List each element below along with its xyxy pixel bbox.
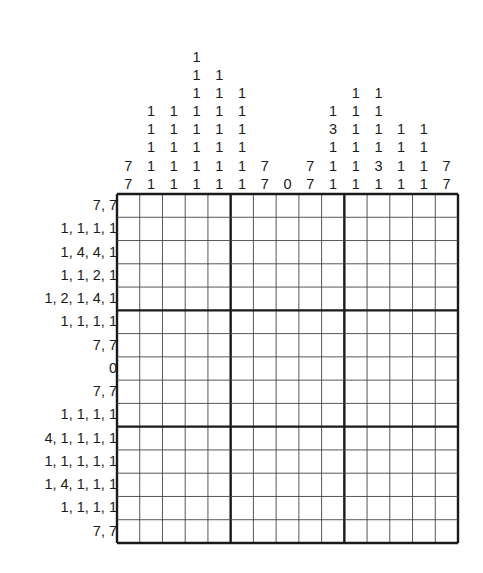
grid-cell-r10-c9[interactable]: [299, 403, 322, 426]
grid-cell-r1-c15[interactable]: [435, 194, 458, 217]
grid-cell-r7-c10[interactable]: [322, 334, 345, 357]
grid-cell-r2-c6[interactable]: [231, 217, 254, 240]
grid-cell-r15-c3[interactable]: [162, 520, 185, 543]
grid-cell-r7-c9[interactable]: [299, 334, 322, 357]
grid-cell-r1-c4[interactable]: [185, 194, 208, 217]
grid-cell-r15-c10[interactable]: [322, 520, 345, 543]
grid-cell-r3-c11[interactable]: [344, 241, 367, 264]
grid-cell-r4-c12[interactable]: [367, 264, 390, 287]
grid-cell-r15-c14[interactable]: [413, 520, 436, 543]
grid-cell-r5-c15[interactable]: [435, 287, 458, 310]
grid-cell-r13-c3[interactable]: [162, 473, 185, 496]
grid-cell-r2-c12[interactable]: [367, 217, 390, 240]
grid-cell-r4-c1[interactable]: [117, 264, 140, 287]
grid-cell-r5-c6[interactable]: [231, 287, 254, 310]
grid-cell-r12-c4[interactable]: [185, 450, 208, 473]
grid-cell-r1-c6[interactable]: [231, 194, 254, 217]
grid-cell-r10-c14[interactable]: [413, 403, 436, 426]
grid-cell-r5-c2[interactable]: [140, 287, 163, 310]
grid-cell-r6-c9[interactable]: [299, 310, 322, 333]
grid-cell-r9-c4[interactable]: [185, 380, 208, 403]
grid-cell-r14-c5[interactable]: [208, 496, 231, 519]
grid-cell-r9-c12[interactable]: [367, 380, 390, 403]
grid-cell-r9-c7[interactable]: [253, 380, 276, 403]
grid-cell-r8-c2[interactable]: [140, 357, 163, 380]
grid-cell-r10-c3[interactable]: [162, 403, 185, 426]
grid-cell-r2-c7[interactable]: [253, 217, 276, 240]
grid-cell-r15-c9[interactable]: [299, 520, 322, 543]
grid-cell-r12-c11[interactable]: [344, 450, 367, 473]
grid-cell-r6-c14[interactable]: [413, 310, 436, 333]
grid-cell-r12-c13[interactable]: [390, 450, 413, 473]
grid-cell-r8-c12[interactable]: [367, 357, 390, 380]
grid-cell-r5-c4[interactable]: [185, 287, 208, 310]
grid-cell-r1-c9[interactable]: [299, 194, 322, 217]
grid-cell-r10-c13[interactable]: [390, 403, 413, 426]
grid-cell-r14-c4[interactable]: [185, 496, 208, 519]
grid-cell-r10-c5[interactable]: [208, 403, 231, 426]
grid-cell-r3-c15[interactable]: [435, 241, 458, 264]
grid-cell-r15-c12[interactable]: [367, 520, 390, 543]
grid-cell-r7-c1[interactable]: [117, 334, 140, 357]
grid-cell-r12-c1[interactable]: [117, 450, 140, 473]
grid-cell-r5-c3[interactable]: [162, 287, 185, 310]
grid-cell-r3-c4[interactable]: [185, 241, 208, 264]
grid-cell-r6-c1[interactable]: [117, 310, 140, 333]
grid-cell-r13-c11[interactable]: [344, 473, 367, 496]
grid-cell-r11-c1[interactable]: [117, 427, 140, 450]
grid-cell-r3-c8[interactable]: [276, 241, 299, 264]
grid-cell-r3-c3[interactable]: [162, 241, 185, 264]
grid-cell-r3-c10[interactable]: [322, 241, 345, 264]
grid-cell-r8-c10[interactable]: [322, 357, 345, 380]
grid-cell-r9-c14[interactable]: [413, 380, 436, 403]
grid-cell-r8-c6[interactable]: [231, 357, 254, 380]
grid-cell-r11-c7[interactable]: [253, 427, 276, 450]
grid-cell-r15-c1[interactable]: [117, 520, 140, 543]
grid-cell-r11-c11[interactable]: [344, 427, 367, 450]
grid-cell-r12-c7[interactable]: [253, 450, 276, 473]
grid-cell-r14-c9[interactable]: [299, 496, 322, 519]
grid-cell-r12-c12[interactable]: [367, 450, 390, 473]
grid-cell-r1-c7[interactable]: [253, 194, 276, 217]
grid-cell-r13-c6[interactable]: [231, 473, 254, 496]
grid-cell-r4-c15[interactable]: [435, 264, 458, 287]
grid-cell-r7-c8[interactable]: [276, 334, 299, 357]
grid-cell-r11-c15[interactable]: [435, 427, 458, 450]
grid-cell-r15-c5[interactable]: [208, 520, 231, 543]
grid-cell-r10-c10[interactable]: [322, 403, 345, 426]
grid-cell-r8-c4[interactable]: [185, 357, 208, 380]
grid-cell-r11-c5[interactable]: [208, 427, 231, 450]
grid-cell-r8-c15[interactable]: [435, 357, 458, 380]
grid-cell-r4-c11[interactable]: [344, 264, 367, 287]
grid-cell-r4-c5[interactable]: [208, 264, 231, 287]
grid-cell-r12-c5[interactable]: [208, 450, 231, 473]
grid-cell-r1-c2[interactable]: [140, 194, 163, 217]
grid-cell-r1-c1[interactable]: [117, 194, 140, 217]
grid-cell-r9-c9[interactable]: [299, 380, 322, 403]
grid-cell-r2-c4[interactable]: [185, 217, 208, 240]
grid-cell-r1-c8[interactable]: [276, 194, 299, 217]
grid-cell-r14-c14[interactable]: [413, 496, 436, 519]
grid-cell-r12-c2[interactable]: [140, 450, 163, 473]
grid-cell-r8-c14[interactable]: [413, 357, 436, 380]
grid-cell-r4-c2[interactable]: [140, 264, 163, 287]
grid-cell-r14-c1[interactable]: [117, 496, 140, 519]
grid-cell-r4-c14[interactable]: [413, 264, 436, 287]
grid-cell-r10-c1[interactable]: [117, 403, 140, 426]
grid-cell-r12-c14[interactable]: [413, 450, 436, 473]
grid-cell-r13-c2[interactable]: [140, 473, 163, 496]
grid-cell-r9-c2[interactable]: [140, 380, 163, 403]
grid-cell-r8-c3[interactable]: [162, 357, 185, 380]
grid-cell-r1-c3[interactable]: [162, 194, 185, 217]
grid-cell-r13-c7[interactable]: [253, 473, 276, 496]
grid-cell-r2-c5[interactable]: [208, 217, 231, 240]
grid-cell-r8-c9[interactable]: [299, 357, 322, 380]
grid-cell-r7-c6[interactable]: [231, 334, 254, 357]
grid-cell-r4-c10[interactable]: [322, 264, 345, 287]
grid-cell-r3-c9[interactable]: [299, 241, 322, 264]
grid-cell-r5-c10[interactable]: [322, 287, 345, 310]
grid-cell-r12-c9[interactable]: [299, 450, 322, 473]
grid-cell-r2-c8[interactable]: [276, 217, 299, 240]
grid-cell-r15-c13[interactable]: [390, 520, 413, 543]
grid-cell-r9-c3[interactable]: [162, 380, 185, 403]
